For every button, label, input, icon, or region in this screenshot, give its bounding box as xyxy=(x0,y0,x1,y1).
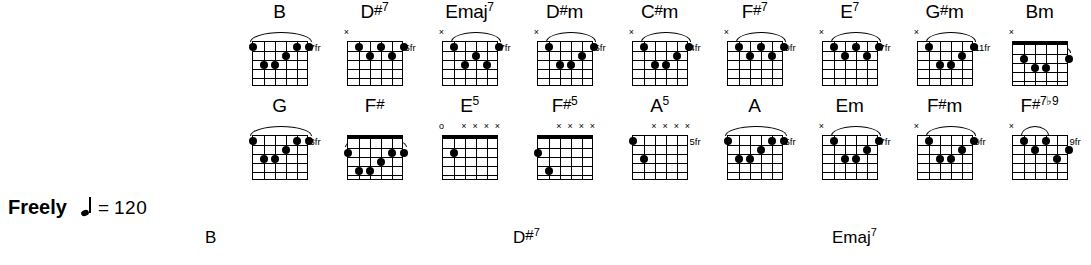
finger-dot xyxy=(651,61,659,69)
finger-dot xyxy=(293,43,301,51)
fret-position-label: 6fr xyxy=(595,43,606,52)
chord-diagram: 3fr xyxy=(244,123,316,185)
chord-Bm[interactable]: Bm× xyxy=(992,2,1087,91)
finger-dot xyxy=(662,61,670,69)
finger-dot xyxy=(958,146,966,154)
chord-diagram: 7fr xyxy=(244,29,316,91)
chord-diagram: ×7fr xyxy=(434,29,506,91)
sharp-sign: # xyxy=(374,1,382,18)
fretboard-grid xyxy=(347,41,403,86)
fretboard-grid xyxy=(727,135,783,180)
finger-dot xyxy=(1053,155,1061,163)
chord-name-label: E5 xyxy=(460,96,479,120)
string-markers: × xyxy=(347,29,403,38)
finger-dot xyxy=(260,155,268,163)
chord-extension: 7 xyxy=(871,226,877,238)
chord-diagram: ×11fr xyxy=(909,29,981,91)
chord-root: E xyxy=(832,228,843,247)
sharp-sign: # xyxy=(559,1,567,18)
fret-position-label: 5fr xyxy=(690,137,701,146)
chord-E7[interactable]: E7×7fr xyxy=(802,2,897,91)
finger-dot xyxy=(1020,55,1028,63)
sharp-sign: # xyxy=(1032,95,1040,112)
chord-diagram: ×6fr xyxy=(529,29,601,91)
chord-Fsharp5[interactable]: F#5×××× xyxy=(517,96,612,185)
finger-dot xyxy=(567,61,575,69)
chord-E5[interactable]: E5o×××× xyxy=(422,96,517,185)
fretboard-grid xyxy=(727,41,783,86)
finger-dot xyxy=(1020,137,1028,145)
finger-dot xyxy=(483,61,491,69)
chord-diagram: ×7fr xyxy=(814,123,886,185)
chord-Fsharp7[interactable]: F#7×9fr xyxy=(707,2,802,91)
chord-diagram: ×××× xyxy=(529,123,601,185)
chord-diagram: ×7fr xyxy=(814,29,886,91)
fretboard-grid xyxy=(537,41,593,86)
finger-dot xyxy=(724,137,732,145)
fret-position-label: 7fr xyxy=(310,43,321,52)
chord-G[interactable]: G3fr xyxy=(232,96,327,185)
chord-diagram: o×××× xyxy=(434,123,506,185)
fret-position-label: 3fr xyxy=(310,137,321,146)
chord-extension: 7 xyxy=(487,0,493,14)
chord-Gsharpm[interactable]: G#m×11fr xyxy=(897,2,992,91)
sharp-sign: # xyxy=(525,226,533,243)
chord-diagram: × xyxy=(1004,29,1076,91)
chord-A5[interactable]: A5××××5fr xyxy=(612,96,707,185)
chord-root: A xyxy=(650,95,662,116)
finger-dot xyxy=(388,52,396,60)
chord-Fsharpm[interactable]: F#m×9fr xyxy=(897,96,992,185)
fretboard-grid xyxy=(632,135,688,180)
fretboard-grid xyxy=(1012,41,1068,86)
muted-string-icon: × xyxy=(819,28,824,37)
finger-dot xyxy=(282,146,290,154)
muted-string-icon: × xyxy=(819,122,824,131)
finger-dot xyxy=(1031,64,1039,72)
finger-dot xyxy=(746,155,754,163)
chord-name-label: Bm xyxy=(1026,2,1054,26)
chord-extension: 7 xyxy=(761,0,767,14)
finger-dot xyxy=(1065,55,1073,63)
chord-A[interactable]: A5fr xyxy=(707,96,802,185)
fret-position-label: 6fr xyxy=(405,43,416,52)
chord-diagram: ××××5fr xyxy=(624,123,696,185)
chord-Emaj7[interactable]: Emaj7×7fr xyxy=(422,2,517,91)
chord-root: B xyxy=(273,1,285,22)
chord-Dsharpm[interactable]: D#m×6fr xyxy=(517,2,612,91)
finger-dot xyxy=(400,149,408,157)
finger-dot xyxy=(534,149,542,157)
muted-string-icon: × xyxy=(629,28,634,37)
chord-name-label: F#m xyxy=(927,96,962,120)
string-markers: × xyxy=(1012,29,1068,38)
chord-Csharpm[interactable]: C#m×4fr xyxy=(612,2,707,91)
finger-dot xyxy=(282,52,290,60)
muted-string-icon: × xyxy=(914,28,919,37)
finger-dot xyxy=(545,43,553,51)
fret-position-label: 9fr xyxy=(975,137,986,146)
chord-chart-sheet: B7frD#7×6frEmaj7×7frD#m×6frC#m×4frF#7×9f… xyxy=(0,0,1091,265)
muted-string-icon: × xyxy=(685,122,690,131)
sharp-sign: # xyxy=(563,95,571,112)
fretboard-grid xyxy=(537,135,593,180)
chord-name-label: A xyxy=(748,96,760,120)
chord-diagram-row-1: B7frD#7×6frEmaj7×7frD#m×6frC#m×4frF#7×9f… xyxy=(232,2,1087,91)
quarter-note-icon xyxy=(81,198,93,217)
finger-dot xyxy=(366,52,374,60)
chord-extension: 7 xyxy=(382,0,388,14)
chord-B[interactable]: B7fr xyxy=(232,2,327,91)
finger-dot xyxy=(735,155,743,163)
chord-Fsharp7b9[interactable]: F#7♭9×9fr xyxy=(992,96,1087,185)
chord-diagram xyxy=(339,123,411,185)
chord-Dsharp7[interactable]: D#7×6fr xyxy=(327,2,422,91)
chord-root: A xyxy=(748,95,760,116)
chord-root: F xyxy=(927,95,938,116)
sharp-sign: # xyxy=(654,1,662,18)
finger-dot xyxy=(757,43,765,51)
string-markers xyxy=(347,123,403,132)
chord-Em[interactable]: Em×7fr xyxy=(802,96,897,185)
finger-dot xyxy=(947,155,955,163)
finger-dot xyxy=(556,61,564,69)
fretboard-grid xyxy=(917,41,973,86)
string-markers: ×××× xyxy=(632,123,688,132)
chord-Fsharp[interactable]: F# xyxy=(327,96,422,185)
